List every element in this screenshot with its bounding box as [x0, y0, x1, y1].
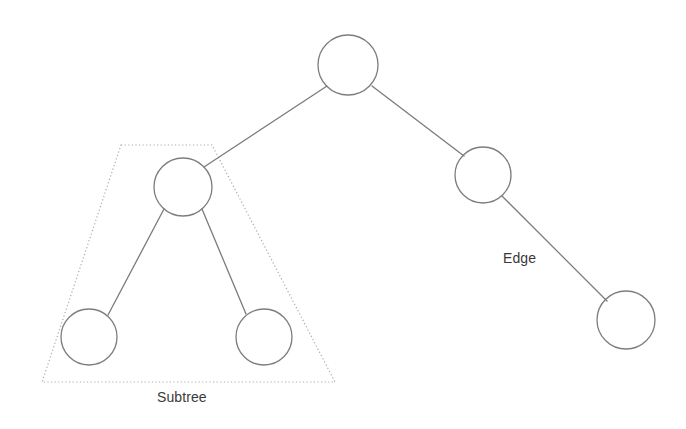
node-leaf-left: [61, 309, 117, 365]
diagram-canvas: Edge Subtree: [0, 0, 686, 429]
edge-left-child-to-leaf-right: [202, 209, 246, 314]
node-leaf-far-right: [597, 291, 655, 349]
edge-right-child-to-leaf-far-right: [502, 196, 607, 301]
node-root: [318, 35, 378, 95]
edge-root-to-left-child: [204, 86, 327, 167]
tree-diagram: [0, 0, 686, 429]
node-right-child: [455, 147, 511, 203]
edge-root-to-right-child: [372, 86, 464, 156]
node-leaf-right: [236, 309, 292, 365]
subtree-annotation-label: Subtree: [157, 389, 207, 405]
node-left-child: [154, 158, 212, 216]
edge-left-child-to-leaf-left: [108, 209, 164, 315]
edge-annotation-label: Edge: [503, 250, 536, 266]
subtree-boundary-outline: [42, 145, 335, 382]
